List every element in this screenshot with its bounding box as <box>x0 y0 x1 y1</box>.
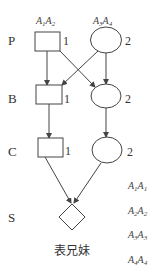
b-male-number: 1 <box>64 92 70 106</box>
generation-label-b: B <box>8 91 17 106</box>
line-cfemale-s <box>74 163 101 203</box>
p-male-square <box>35 32 60 51</box>
p-male-number: 1 <box>63 34 69 48</box>
p-female-number: 2 <box>125 34 131 48</box>
c-female-number: 2 <box>127 145 133 159</box>
offspring-genotype-4: A4A4 <box>127 254 148 267</box>
c-male-square <box>38 138 63 157</box>
c-male-number: 1 <box>65 144 71 158</box>
offspring-caption: 表兄妹 <box>54 244 90 258</box>
line-cmale-s <box>45 157 71 203</box>
male-parent-genotype: A1A2 <box>35 15 56 28</box>
generation-label-p: P <box>8 33 15 48</box>
offspring-genotype-1: A1A1 <box>127 180 147 193</box>
b-female-circle <box>91 84 121 108</box>
c-female-circle <box>92 137 122 163</box>
p-female-circle <box>91 27 122 53</box>
generation-label-c: C <box>8 144 17 159</box>
b-male-square <box>36 85 62 104</box>
line-pfemale-bmale <box>62 51 98 85</box>
female-parent-genotype: A3A4 <box>92 15 113 28</box>
offspring-genotype-2: A2A2 <box>127 205 148 218</box>
generation-label-s: S <box>8 210 15 225</box>
s-offspring-diamond <box>59 204 85 230</box>
b-female-number: 2 <box>125 92 131 106</box>
offspring-genotype-3: A3A3 <box>127 229 148 242</box>
pedigree-diagram: P B C S A1A2 A3A4 1 2 1 2 1 2 表兄妹 A1A1 A… <box>0 0 159 277</box>
